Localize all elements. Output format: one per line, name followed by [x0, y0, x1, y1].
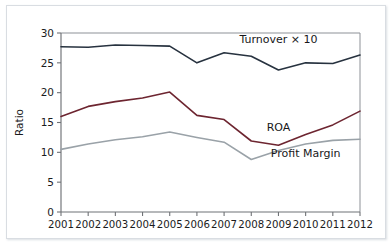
x-tick-label-2003: 2003	[102, 219, 128, 230]
x-tick-label-2008: 2008	[238, 219, 264, 230]
y-tick-label-5: 5	[47, 176, 54, 188]
x-tick-label-2010: 2010	[293, 219, 319, 230]
x-tick-label-2005: 2005	[157, 219, 183, 230]
x-tick-label-2001: 2001	[48, 219, 74, 230]
series-label-roa: ROA	[267, 121, 291, 134]
x-tick-label-2009: 2009	[265, 219, 291, 230]
series-label-turnover-10: Turnover × 10	[238, 33, 317, 46]
y-tick-label-10: 10	[41, 146, 54, 158]
x-tick-label-2004: 2004	[130, 219, 156, 230]
y-tick-label-30: 30	[41, 27, 54, 39]
chart-page: 051015202530 200120022003200420052006200…	[0, 0, 392, 244]
x-tick-label-2012: 2012	[347, 219, 373, 230]
series-line-turnover-10	[61, 45, 360, 70]
x-tick-label-2007: 2007	[211, 219, 237, 230]
x-axis: 2001200220032004200520062007200820092010…	[48, 212, 373, 230]
y-tick-label-0: 0	[47, 206, 54, 218]
chart-frame: 051015202530 200120022003200420052006200…	[6, 5, 386, 239]
y-tick-label-20: 20	[41, 86, 54, 98]
series-line-roa	[61, 92, 360, 145]
line-chart: 051015202530 200120022003200420052006200…	[7, 6, 385, 238]
y-axis-title: Ratio	[13, 109, 25, 136]
x-tick-label-2011: 2011	[320, 219, 346, 230]
x-tick-label-2002: 2002	[75, 219, 101, 230]
series-label-profit-margin: Profit Margin	[271, 147, 341, 160]
series-group	[61, 45, 360, 160]
plot-area-border	[61, 33, 360, 212]
x-tick-label-2006: 2006	[184, 219, 210, 230]
y-tick-label-25: 25	[41, 57, 54, 69]
y-axis: 051015202530	[41, 27, 61, 218]
y-tick-label-15: 15	[41, 116, 54, 128]
